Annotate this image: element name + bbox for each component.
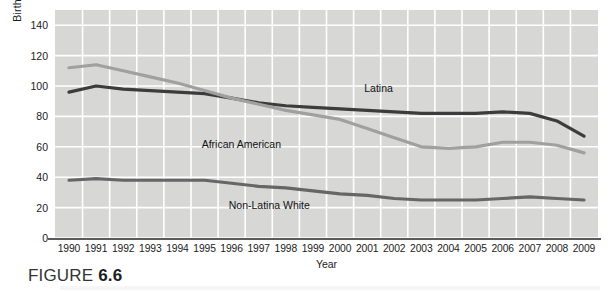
scan-artifact [60, 286, 600, 290]
y-tick-label: 20 [14, 202, 48, 214]
x-tick-label: 2009 [567, 242, 601, 256]
x-axis-line [48, 238, 601, 240]
figure-caption: FIGURE 6.6 [28, 266, 122, 286]
series-label: Latina [364, 82, 393, 94]
series-label: African American [202, 138, 281, 150]
y-tick-label: 0 [14, 232, 48, 244]
y-tick-label: 80 [14, 110, 48, 122]
series-line [69, 86, 584, 136]
y-tick-label: 140 [14, 19, 48, 31]
y-tick-label: 120 [14, 50, 48, 62]
x-axis-title: Year [55, 258, 598, 270]
y-tick-label: 60 [14, 141, 48, 153]
figure-container: Birth rate per 1,000 females ages 15–19 … [0, 0, 616, 292]
y-tick-label: 40 [14, 171, 48, 183]
series-lines [55, 10, 598, 238]
figure-caption-number: 6.6 [98, 266, 122, 285]
series-line [69, 179, 584, 200]
plot-area [55, 10, 598, 238]
x-tick-labels: 1990199119921993199419951996199719981999… [55, 242, 598, 256]
figure-caption-word: FIGURE [28, 266, 93, 285]
y-tick-label: 100 [14, 80, 48, 92]
series-label: Non-Latina White [229, 199, 310, 211]
